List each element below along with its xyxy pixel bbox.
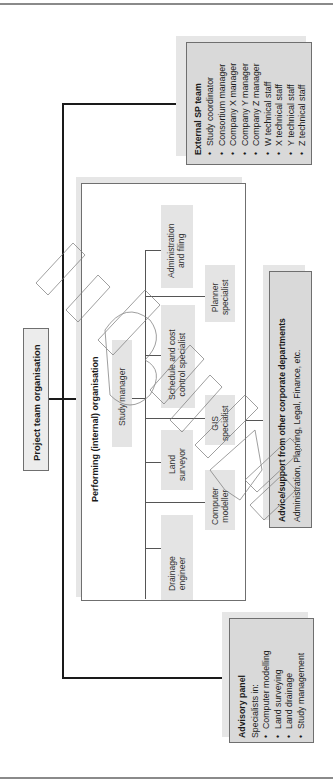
node-computer-modeller: Computer modeller (205, 470, 235, 530)
tree-link-computer (145, 502, 205, 503)
advice-box: Advice/support from other corporate depa… (269, 271, 312, 528)
title-box: Project team organisation (23, 328, 49, 471)
list-item: Study management (296, 650, 308, 738)
tree-link-land (145, 462, 161, 463)
node-drainage-engineer: Drainage engineer (161, 515, 193, 600)
node-planner-specialist: Planner specialist (205, 265, 235, 322)
advisory-heading: Advisory panel (235, 650, 249, 738)
main-connector-vertical (62, 103, 64, 679)
node-administration: Administration and filing (161, 205, 193, 288)
list-item: W technical staff (263, 63, 275, 155)
list-item: Y technical staff (286, 63, 298, 155)
connector-external (62, 103, 187, 105)
node-land-surveyor: Land surveyor (161, 430, 193, 490)
advice-heading: Advice/support from other corporate depa… (275, 318, 290, 522)
tree-spine (145, 250, 146, 599)
performing-org-heading: Performing (internal) organisation (88, 356, 102, 502)
bottom-rule (0, 777, 333, 779)
node-schedule-cost: Schedule and cost control specialist (161, 305, 195, 408)
page-title: Project team organisation (30, 344, 44, 461)
advisory-intro: Specialists in: (249, 650, 261, 738)
list-item: Land drainage (284, 650, 296, 738)
top-rule (0, 3, 333, 5)
node-gis-specialist: GIS specialist (205, 395, 235, 445)
tree-link-admin (145, 250, 161, 251)
connector-advisory (62, 677, 230, 679)
external-team-heading: External SP team (191, 63, 205, 155)
list-item: X technical staff (274, 63, 286, 155)
list-item: Study coordinator (205, 63, 217, 155)
external-team-list: Study coordinator Consortium manager Com… (205, 63, 309, 155)
external-sp-team-box: External SP team Study coordinator Conso… (186, 42, 312, 165)
list-item: Company Z manager (251, 63, 263, 155)
advisory-panel-box: Advisory panel Specialists in: Computer … (229, 618, 314, 743)
tree-link-planner (145, 296, 205, 297)
tree-link-gis (145, 418, 205, 419)
list-item: Consortium manager (217, 63, 229, 155)
list-item: Computer modelling (261, 650, 273, 738)
tree-link-drainage (145, 548, 161, 549)
list-item: Land surveying (273, 650, 285, 738)
list-item: Company Y manager (240, 63, 252, 155)
node-study-manager: Study manager (112, 340, 132, 447)
tree-link-study-manager (132, 398, 145, 399)
list-item: Company X manager (228, 63, 240, 155)
list-item: Z technical staff (297, 63, 309, 155)
tree-link-schedule (145, 355, 161, 356)
advisory-list: Computer modelling Land surveying Land d… (261, 650, 307, 738)
advice-text: Administration, Planning, Legal, Finance… (290, 318, 305, 522)
